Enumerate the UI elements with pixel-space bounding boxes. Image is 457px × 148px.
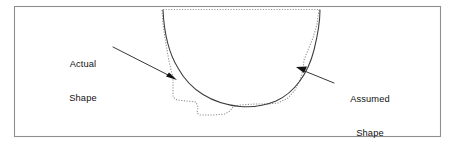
assumed-shape-label: Assumed Shape bbox=[337, 71, 403, 148]
assumed-shape-label-line1: Assumed bbox=[337, 94, 403, 105]
figure-container: Actual Shape Assumed Shape bbox=[0, 0, 457, 148]
actual-shape-label-line1: Actual bbox=[57, 59, 109, 70]
actual-shape-label: Actual Shape bbox=[57, 36, 109, 127]
actual-shape-label-line2: Shape bbox=[57, 93, 109, 104]
assumed-shape-label-line2: Shape bbox=[337, 128, 403, 139]
